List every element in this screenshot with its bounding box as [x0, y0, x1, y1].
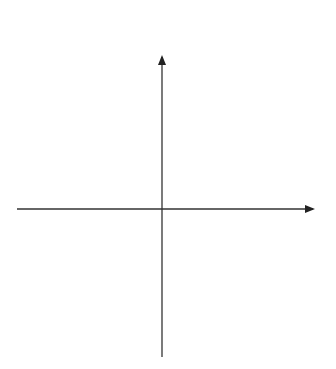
- chart-canvas: [0, 0, 336, 369]
